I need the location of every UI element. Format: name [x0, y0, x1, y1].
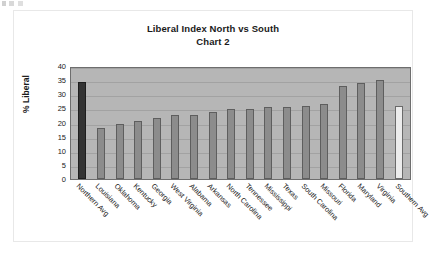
bar-slot [371, 68, 390, 179]
bar [357, 83, 365, 179]
bar [246, 109, 254, 179]
bar [376, 80, 384, 179]
plot-wrapper [70, 67, 411, 180]
x-label-slot: Mississippi [259, 181, 278, 243]
plot-area [70, 67, 411, 180]
x-label-slot: Florida [334, 181, 353, 243]
x-axis-labels: Northern AvgLouisianaOklahomaKentuckyGeo… [70, 181, 411, 243]
bar-slot [185, 68, 204, 179]
bar [171, 115, 179, 179]
x-label-slot: Oklahoma [109, 181, 128, 243]
y-tick-label: 5 [62, 162, 66, 170]
x-label-slot: Alabama [184, 181, 203, 243]
bar-slot [278, 68, 297, 179]
bar-slot [147, 68, 166, 179]
bar [339, 86, 347, 179]
scan-artifact [2, 1, 32, 6]
bar [209, 112, 217, 179]
bar-slot [259, 68, 278, 179]
chart-title-line1: Liberal Index North vs South [147, 23, 279, 34]
chart-title: Liberal Index North vs South Chart 2 [14, 23, 412, 48]
bar [320, 104, 328, 179]
bar [264, 107, 272, 179]
bar-slot [352, 68, 371, 179]
bar-slot [296, 68, 315, 179]
bar-series [71, 68, 410, 179]
x-label-slot: Kentucky [128, 181, 147, 243]
y-tick-label: 35 [58, 77, 66, 85]
bar [78, 82, 86, 179]
x-label-slot: Southern Avg [390, 181, 409, 243]
x-label-slot: West Virginia [166, 181, 185, 243]
y-tick-label: 40 [58, 63, 66, 71]
y-tick-label: 30 [58, 91, 66, 99]
bar [395, 106, 403, 179]
chart-figure: Liberal Index North vs South Chart 2 % L… [13, 10, 413, 242]
bar-slot [129, 68, 148, 179]
x-label-slot: Virginia [372, 181, 391, 243]
x-label-slot: Missouri [315, 181, 334, 243]
bar [134, 121, 142, 179]
bar [97, 128, 105, 179]
chart-subtitle: Chart 2 [14, 36, 412, 49]
y-tick-label: 10 [58, 148, 66, 156]
x-label-slot: Maryland [353, 181, 372, 243]
y-tick-label: 25 [58, 105, 66, 113]
bar [153, 118, 161, 179]
x-label-slot: Georgia [147, 181, 166, 243]
y-axis-ticks: 4035302520151050 [40, 61, 66, 186]
bar-slot [334, 68, 353, 179]
bar [116, 124, 124, 179]
bar-slot [389, 68, 408, 179]
bar-slot [92, 68, 111, 179]
x-label-slot: South Carolina [297, 181, 316, 243]
y-tick-label: 0 [62, 176, 66, 184]
bar-slot [110, 68, 129, 179]
bar-slot [203, 68, 222, 179]
bar [227, 109, 235, 179]
bar [283, 107, 291, 179]
x-label-slot: North Carolina [222, 181, 241, 243]
y-tick-label: 15 [58, 134, 66, 142]
bar [190, 115, 198, 179]
bar-slot [222, 68, 241, 179]
bar-slot [315, 68, 334, 179]
x-axis-label: Southern Avg [393, 182, 430, 219]
x-label-slot: Texas [278, 181, 297, 243]
bar-slot [166, 68, 185, 179]
y-axis-title: % Liberal [21, 58, 31, 130]
bar-slot [73, 68, 92, 179]
y-tick-label: 20 [58, 120, 66, 128]
bar [302, 106, 310, 179]
x-label-slot: Arkansas [203, 181, 222, 243]
x-label-slot: Louisiana [91, 181, 110, 243]
x-label-slot: Northern Avg [72, 181, 91, 243]
x-label-slot: Tennessee [240, 181, 259, 243]
bar-slot [240, 68, 259, 179]
